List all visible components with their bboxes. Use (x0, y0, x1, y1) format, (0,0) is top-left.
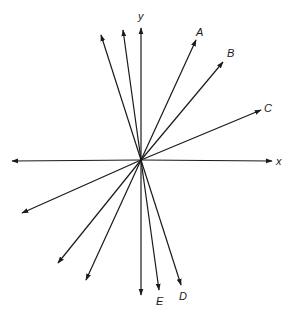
vector-c-arrow (141, 110, 261, 160)
vector-unlabeled-lower-left-2-arrow (58, 160, 141, 263)
vector-x-axis-positive-arrow (141, 160, 272, 161)
vector-diagram: y x A B C D E (0, 0, 289, 314)
vector-unlabeled-upper-left-2-arrow (123, 30, 141, 160)
vector-e-arrow (141, 160, 159, 290)
vector-label-b: B (227, 47, 234, 59)
vector-x-axis-negative-arrow (12, 160, 141, 161)
vector-unlabeled-upper-left-1-arrow (101, 35, 141, 160)
vector-label-e: E (156, 295, 164, 307)
vector-label-d: D (179, 290, 187, 302)
x-axis-label: x (275, 155, 282, 167)
y-axis-label: y (137, 10, 145, 22)
vectors-group (12, 28, 272, 295)
vector-unlabeled-lower-left-3-arrow (86, 160, 141, 280)
vector-d-arrow (141, 160, 181, 285)
vector-label-c: C (264, 102, 272, 114)
vector-label-a: A (195, 26, 203, 38)
vector-a-arrow (141, 40, 196, 160)
vector-unlabeled-lower-left-1-arrow (22, 160, 141, 213)
vector-b-arrow (141, 62, 223, 160)
